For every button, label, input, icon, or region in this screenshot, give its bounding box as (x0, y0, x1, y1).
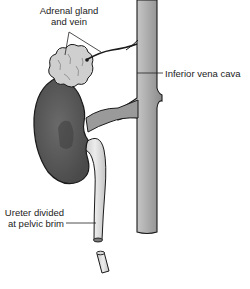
ivc-label: Inferior vena cava (165, 68, 241, 79)
adrenal-label-line1: Adrenal gland (34, 5, 104, 16)
ureter-label-line1: Ureter divided (2, 207, 64, 218)
adrenal-gland (49, 44, 93, 87)
renal-vein (86, 100, 138, 132)
anatomy-illustration (0, 0, 250, 289)
ureter-label-line2: at pelvic brim (2, 218, 64, 229)
adrenal-gland-label: Adrenal gland and vein (34, 5, 104, 27)
kidney (34, 78, 89, 184)
adrenal-label-line2: and vein (34, 16, 104, 27)
ureter-stump (97, 251, 110, 273)
ureter-label: Ureter divided at pelvic brim (2, 207, 64, 229)
ureter (84, 138, 106, 242)
